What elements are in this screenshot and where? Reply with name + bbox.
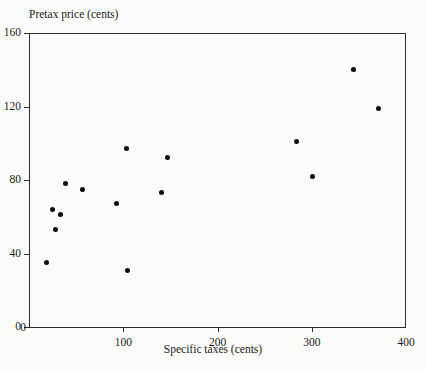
y-axis-line — [29, 33, 30, 328]
y-tick-40: 40 — [24, 254, 29, 255]
y-tick-label-120: 120 — [4, 99, 21, 113]
y-tick-120: 120 — [24, 107, 29, 108]
y-tick-label-40: 40 — [10, 246, 22, 260]
plot-frame-right-edge — [405, 33, 406, 328]
data-point — [165, 155, 170, 160]
data-point — [63, 181, 68, 186]
data-point — [44, 260, 49, 265]
x-tick-300 — [312, 327, 313, 332]
y-tick-80: 80 — [24, 180, 29, 181]
data-point — [159, 190, 164, 195]
x-tick-100 — [123, 327, 124, 332]
y-axis-title: Pretax price (cents) — [29, 8, 118, 21]
scatter-plot-figure: Pretax price (cents) 04080120160 0100200… — [0, 0, 426, 370]
y-tick-160: 160 — [24, 33, 29, 34]
data-point — [124, 146, 129, 151]
data-point — [114, 201, 119, 206]
data-point — [294, 139, 299, 144]
data-point — [125, 268, 130, 273]
data-point — [53, 227, 58, 232]
data-point — [376, 106, 381, 111]
data-point — [80, 187, 85, 192]
y-tick-label-80: 80 — [10, 172, 22, 186]
data-point — [50, 207, 55, 212]
y-tick-label-160: 160 — [4, 25, 21, 39]
data-point — [58, 212, 63, 217]
x-axis-title: Specific taxes (cents) — [0, 342, 426, 356]
x-tick-200 — [218, 327, 219, 332]
x-tick-label-0: 0 — [20, 320, 26, 334]
data-point — [310, 174, 315, 179]
plot-area: 04080120160 0100200300400 — [29, 33, 406, 328]
data-point — [351, 67, 356, 72]
plot-frame-top-edge — [29, 33, 406, 34]
